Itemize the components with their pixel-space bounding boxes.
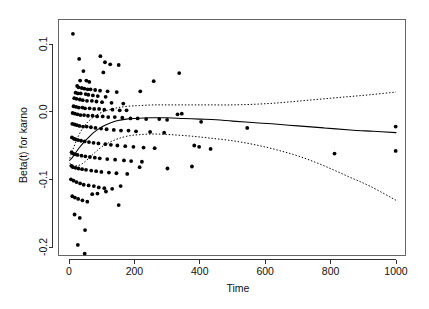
- scatter-point: [97, 142, 101, 146]
- scatter-point: [96, 94, 100, 98]
- scatter-point: [115, 171, 119, 175]
- scatter-point: [98, 89, 102, 93]
- scatter-point: [129, 117, 133, 121]
- scatter-point: [95, 115, 99, 119]
- scatter-point: [136, 117, 140, 121]
- scatter-point: [95, 100, 99, 104]
- scatter-point: [90, 99, 94, 103]
- scatter-point: [106, 115, 110, 119]
- scatter-point: [77, 167, 81, 171]
- scatter-point: [101, 71, 105, 75]
- scatter-point: [93, 88, 97, 92]
- scatter-point: [192, 144, 196, 148]
- scatter-point: [119, 129, 123, 133]
- scatter-point: [102, 186, 106, 190]
- x-axis-tick-label: 400: [191, 265, 209, 277]
- scatter-point: [99, 127, 103, 131]
- x-axis-tick-label: 200: [126, 265, 144, 277]
- scatter-point: [81, 198, 85, 202]
- scatter-point: [97, 107, 101, 111]
- scatter-plot-figure: 02004006008001000 0.10.0-0.1-0.2 Time Be…: [0, 0, 429, 309]
- scatter-point: [153, 146, 157, 150]
- scatter-point: [104, 95, 108, 99]
- scatter-point: [88, 106, 92, 110]
- scatter-point: [110, 187, 114, 191]
- scatter-point: [103, 60, 107, 64]
- scatter-point: [77, 85, 81, 89]
- y-axis-tick-label: -0.2: [37, 238, 49, 256]
- scatter-point: [152, 79, 156, 83]
- scatter-point: [127, 129, 131, 133]
- scatter-point: [73, 213, 77, 217]
- scatter-point: [98, 54, 102, 58]
- scatter-point: [89, 87, 93, 91]
- scatter-point: [87, 184, 91, 188]
- scatter-point: [98, 156, 102, 160]
- x-axis-tick-label: 0: [66, 265, 72, 277]
- scatter-point: [165, 118, 169, 122]
- y-axis-tick-label: 0.0: [37, 104, 49, 119]
- scatter-point: [125, 172, 129, 176]
- scatter-point: [78, 216, 82, 220]
- scatter-point: [83, 252, 87, 256]
- scatter-point: [113, 158, 117, 162]
- scatter-point: [90, 192, 94, 196]
- scatter-point: [75, 97, 79, 101]
- scatter-point: [116, 144, 120, 148]
- scatter-point: [209, 147, 213, 151]
- scatter-point: [91, 94, 95, 98]
- scatter-point: [83, 106, 87, 110]
- scatter-point: [76, 153, 80, 157]
- scatter-point: [134, 129, 138, 133]
- scatter-point: [79, 139, 83, 143]
- scatter-point: [81, 125, 85, 129]
- scatter-point: [94, 169, 98, 173]
- plot-canvas: 02004006008001000 0.10.0-0.1-0.2 Time Be…: [0, 0, 429, 309]
- scatter-point: [77, 57, 81, 61]
- scatter-point: [245, 126, 249, 130]
- scatter-point: [108, 62, 112, 66]
- scatter-point: [142, 146, 146, 150]
- scatter-point: [138, 89, 142, 93]
- scatter-point: [81, 69, 85, 73]
- scatter-point: [140, 160, 144, 164]
- scatter-point: [106, 89, 110, 93]
- scatter-point: [92, 184, 96, 188]
- scatter-point: [117, 63, 121, 67]
- scatter-point: [86, 114, 90, 118]
- scatter-point: [107, 171, 111, 175]
- scatter-point: [138, 165, 142, 169]
- scatter-point: [86, 93, 90, 97]
- scatter-point: [93, 156, 97, 160]
- scatter-point: [199, 120, 203, 124]
- scatter-point: [80, 167, 84, 171]
- scatter-point: [85, 99, 89, 103]
- scatter-point: [121, 102, 125, 106]
- scatter-point: [115, 90, 119, 94]
- x-axis-tick-label: 800: [322, 265, 340, 277]
- scatter-point: [92, 107, 96, 111]
- scatter-point: [78, 124, 82, 128]
- scatter-point: [91, 114, 95, 118]
- scatter-point: [117, 203, 121, 207]
- scatter-point: [105, 127, 109, 131]
- scatter-point: [122, 158, 126, 162]
- y-axis-tick-label: 0.1: [37, 37, 49, 52]
- scatter-point: [78, 79, 82, 83]
- scatter-point: [177, 71, 181, 75]
- scatter-point: [84, 168, 88, 172]
- scatter-point: [197, 145, 201, 149]
- y-axis-tick-label: -0.1: [37, 170, 49, 188]
- scatter-point: [77, 106, 81, 110]
- scatter-point: [120, 116, 124, 120]
- scatter-point: [123, 144, 127, 148]
- scatter-point: [190, 165, 194, 169]
- scatter-point: [99, 170, 103, 174]
- scatter-point: [112, 128, 116, 132]
- scatter-point: [102, 108, 106, 112]
- scatter-point: [118, 108, 122, 112]
- scatter-point: [166, 167, 170, 171]
- scatter-point: [89, 125, 93, 129]
- scatter-point: [85, 125, 89, 129]
- scatter-point: [83, 154, 87, 158]
